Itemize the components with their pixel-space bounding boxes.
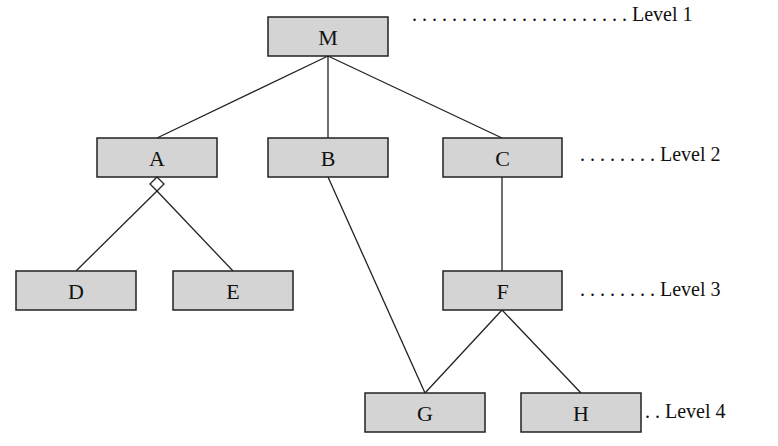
node-f: F xyxy=(443,271,562,310)
level-label-4: . . Level 4 xyxy=(645,400,726,422)
level-label-1: . . . . . . . . . . . . . . . . . . . . … xyxy=(412,3,693,25)
aggregation-diamond-icon xyxy=(150,177,164,191)
edge-m-a xyxy=(157,56,328,138)
level-labels: . . . . . . . . . . . . . . . . . . . . … xyxy=(412,3,726,422)
node-b: B xyxy=(268,138,388,177)
edge-f-h xyxy=(502,310,581,393)
node-label: G xyxy=(417,401,433,426)
level-label-3: . . . . . . . . Level 3 xyxy=(580,278,721,300)
edges xyxy=(76,56,581,393)
node-c: C xyxy=(443,138,562,177)
edge-a-d xyxy=(76,191,157,271)
node-m: M xyxy=(268,17,388,56)
node-label: A xyxy=(149,146,165,171)
node-label: D xyxy=(68,279,84,304)
edge-f-g xyxy=(425,310,502,393)
node-label: E xyxy=(226,279,239,304)
edge-b-g xyxy=(328,177,425,393)
node-a: A xyxy=(97,138,217,177)
node-d: D xyxy=(16,271,136,310)
node-g: G xyxy=(365,393,485,432)
edge-m-c xyxy=(328,56,502,138)
level-label-2: . . . . . . . . Level 2 xyxy=(580,143,721,165)
node-label: H xyxy=(573,401,589,426)
hierarchy-diagram: MABCDEFGH . . . . . . . . . . . . . . . … xyxy=(0,0,778,446)
node-h: H xyxy=(521,393,641,432)
node-label: B xyxy=(321,146,336,171)
node-e: E xyxy=(173,271,293,310)
diamond-icon xyxy=(150,177,164,191)
edge-a-e xyxy=(157,191,233,271)
node-label: F xyxy=(496,279,508,304)
node-label: M xyxy=(318,25,338,50)
node-label: C xyxy=(495,146,510,171)
